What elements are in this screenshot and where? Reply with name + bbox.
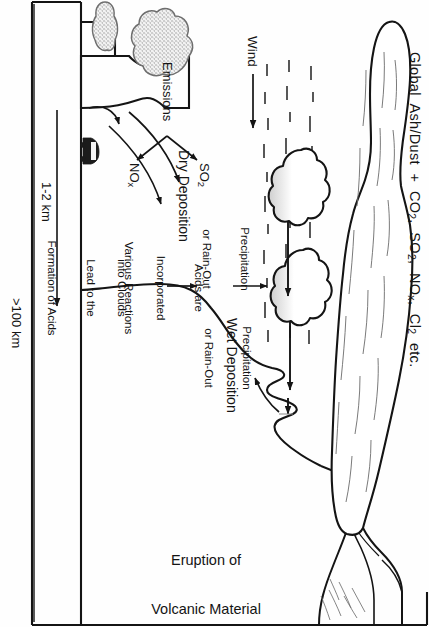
recirculation-arrow — [89, 107, 119, 124]
figure-title-line-2: Volcanic Material — [126, 601, 286, 617]
plume-composition-label: Global Ash/Dust + CO2, SO2, NOx, Cl2 etc… — [405, 52, 423, 368]
cloud-2 — [271, 249, 332, 326]
horizontal-scale-label: >100 km — [8, 298, 23, 348]
dry-deposition-label: Dry Deposition — [175, 150, 191, 242]
figure-title: Eruption of Volcanic Material — [126, 520, 286, 627]
vehicle — [81, 138, 99, 164]
emissions-label: Emissions — [159, 62, 174, 121]
diagram-canvas: Eruption of Volcanic Material Global Ash… — [0, 0, 429, 627]
acid-incorporation-line-2: Incorporated — [154, 242, 167, 334]
wet-deposition-label: Wet Deposition — [223, 318, 239, 413]
volcanic-plume — [332, 22, 413, 535]
wind-label: Wind — [245, 36, 260, 67]
precipitation-label-2-line-2: or Rain-Out — [202, 312, 215, 404]
acid-formation-line-3: Formation of Acids — [45, 228, 58, 348]
precipitation-label-1-line-2: or Rain-Out — [200, 213, 213, 305]
smoke-plume-small — [92, 2, 117, 51]
acid-incorporation-line-3: into Clouds — [115, 242, 128, 334]
boundary-layer-height-label: 1-2 km — [38, 182, 53, 222]
so2-label: SO2 — [196, 163, 211, 187]
nox-label: NOx — [126, 163, 141, 187]
figure-title-line-1: Eruption of — [126, 553, 286, 569]
figure-root: Eruption of Volcanic Material Global Ash… — [0, 0, 429, 627]
dry-deposition-arrows — [89, 107, 179, 204]
cloud-1 — [269, 149, 330, 226]
precipitation-label-1-line-1: Precipitation — [238, 213, 251, 305]
precipitation-label-2-line-1: Precipitation — [240, 312, 253, 404]
